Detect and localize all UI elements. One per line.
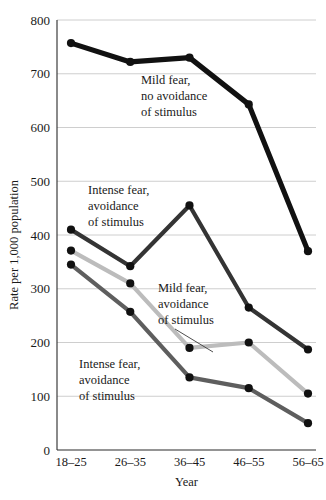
x-axis-tick-labels: 18–2526–3536–4546–5556–65 xyxy=(55,455,323,469)
annotation-line: Mild fear, xyxy=(141,73,190,87)
data-point-marker xyxy=(126,262,134,270)
y-axis-title: Rate per 1,000 population xyxy=(7,179,21,310)
data-point-marker xyxy=(304,389,312,397)
data-point-marker xyxy=(245,384,253,392)
figure-container: 010020030040050060070080018–2526–3536–45… xyxy=(0,0,326,500)
x-axis-title: Year xyxy=(175,475,199,489)
annotation-line: of stimulus xyxy=(158,313,214,327)
annotation-line: of stimulus xyxy=(141,105,197,119)
annotation-line: Mild fear, xyxy=(158,281,207,295)
data-point-marker xyxy=(67,226,75,234)
y-axis-tick-label: 100 xyxy=(31,389,51,404)
data-point-marker xyxy=(185,54,193,62)
data-point-marker xyxy=(67,260,75,268)
data-point-marker xyxy=(185,373,193,381)
annotation-line: Intense fear, xyxy=(79,357,140,371)
annotation-intense-avoidance-upper: Intense fear,avoidanceof stimulus xyxy=(88,183,149,229)
data-point-marker xyxy=(67,39,75,47)
data-point-marker xyxy=(245,303,253,311)
line-chart: 010020030040050060070080018–2526–3536–45… xyxy=(0,0,326,500)
y-axis-tick-label: 700 xyxy=(31,66,51,81)
annotation-intense-avoidance-lower: Intense fear,avoidanceof stimulus xyxy=(79,357,140,403)
y-axis-tick-label: 800 xyxy=(31,13,51,28)
annotation-line: of stimulus xyxy=(88,215,144,229)
x-axis-tick-label: 36–45 xyxy=(174,455,205,469)
y-axis-tick-label: 600 xyxy=(31,120,51,135)
annotation-line: of stimulus xyxy=(79,389,135,403)
data-point-marker xyxy=(126,58,134,66)
data-point-marker xyxy=(185,201,193,209)
annotation-line: no avoidance xyxy=(141,89,208,103)
data-point-marker xyxy=(126,308,134,316)
annotation-line: avoidance xyxy=(79,373,130,387)
x-axis-tick-label: 46–55 xyxy=(233,455,264,469)
y-axis-tick-label: 0 xyxy=(44,443,51,458)
data-point-marker xyxy=(245,100,253,108)
annotation-line: avoidance xyxy=(158,297,209,311)
figure-caption xyxy=(4,490,7,499)
data-point-marker xyxy=(67,246,75,254)
y-axis-tick-label: 500 xyxy=(31,174,51,189)
annotation-mild-no-avoidance: Mild fear,no avoidanceof stimulus xyxy=(141,73,208,119)
data-point-marker xyxy=(245,338,253,346)
annotation-line: avoidance xyxy=(88,199,139,213)
data-point-marker xyxy=(126,279,134,287)
figure-caption-strip xyxy=(0,490,326,500)
y-axis-tick-label: 300 xyxy=(31,281,51,296)
x-axis-tick-label: 26–35 xyxy=(115,455,146,469)
annotation-line: Intense fear, xyxy=(88,183,149,197)
x-axis-tick-label: 56–65 xyxy=(292,455,323,469)
x-axis-tick-label: 18–25 xyxy=(55,455,86,469)
data-point-marker xyxy=(304,345,312,353)
data-point-marker xyxy=(185,344,193,352)
data-point-marker xyxy=(304,247,312,255)
data-point-marker xyxy=(304,419,312,427)
y-axis-tick-label: 200 xyxy=(31,335,51,350)
y-axis-tick-label: 400 xyxy=(31,228,51,243)
